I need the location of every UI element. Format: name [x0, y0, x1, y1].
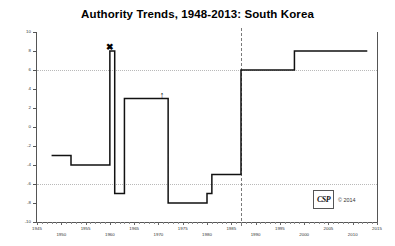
x-tick-label-2015: 2015: [365, 227, 389, 231]
x-tick-label-1950: 1950: [49, 233, 73, 237]
y-tick-label-4: 4: [17, 87, 31, 91]
y-tick-label--6: -6: [17, 182, 31, 186]
x-tick-label-2000: 2000: [292, 233, 316, 237]
y-tick-label--4: -4: [17, 163, 31, 167]
copyright-label: © 2014: [338, 197, 355, 203]
x-marker-icon: ✖: [106, 43, 114, 52]
x-tick-label-1955: 1955: [74, 227, 98, 231]
page-title: Authority Trends, 1948-2013: South Korea: [0, 8, 395, 20]
y-tick-label-8: 8: [17, 49, 31, 53]
y-tick-label--8: -8: [17, 201, 31, 205]
up-arrow-marker-icon: ↑: [160, 91, 165, 100]
x-tick-label-1970: 1970: [146, 233, 170, 237]
x-tick-label-1960: 1960: [98, 233, 122, 237]
x-tick-label-1990: 1990: [244, 233, 268, 237]
x-tick-label-1975: 1975: [171, 227, 195, 231]
x-tick-label-1965: 1965: [122, 227, 146, 231]
x-tick-label-1985: 1985: [219, 227, 243, 231]
x-tick-label-2005: 2005: [316, 227, 340, 231]
csp-logo-icon: CSP: [314, 191, 333, 208]
chart-root: Authority Trends, 1948-2013: South Korea…: [0, 0, 395, 246]
csp-logo-box: CSP: [313, 190, 334, 209]
y-tick-label-10: 10: [17, 30, 31, 34]
x-tick-label-1995: 1995: [268, 227, 292, 231]
logo-group: CSP © 2014: [313, 190, 355, 209]
y-tick-label-2: 2: [17, 106, 31, 110]
x-tick-label-2010: 2010: [341, 233, 365, 237]
y-tick-label--2: -2: [17, 144, 31, 148]
y-tick-label-6: 6: [17, 68, 31, 72]
y-tick-label-0: 0: [17, 125, 31, 129]
x-tick-label-1980: 1980: [195, 233, 219, 237]
y-tick-label--10: -10: [17, 220, 31, 224]
x-tick-label-1945: 1945: [25, 227, 49, 231]
